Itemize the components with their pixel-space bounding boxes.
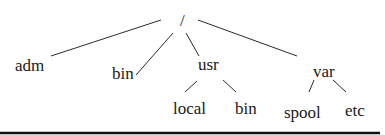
node-bin: bin [112,64,134,83]
node-usr-bin: bin [235,99,257,118]
edge-usr-local [185,81,197,92]
edge-var-etc [333,80,346,92]
edge-root-var [198,20,297,56]
node-usr: usr [198,55,219,74]
node-adm: adm [15,56,44,75]
filesystem-tree-diagram: / adm bin usr var local bin spool etc [0,0,385,135]
edge-var-spool [309,80,314,92]
node-root: / [180,11,185,30]
node-var: var [313,62,335,81]
node-etc: etc [345,101,365,120]
edge-root-usr [186,33,199,56]
edge-root-bin [136,33,173,75]
node-local: local [173,99,206,118]
node-spool: spool [284,103,321,122]
edge-usr-bin [223,80,236,92]
edge-root-adm [51,20,161,56]
